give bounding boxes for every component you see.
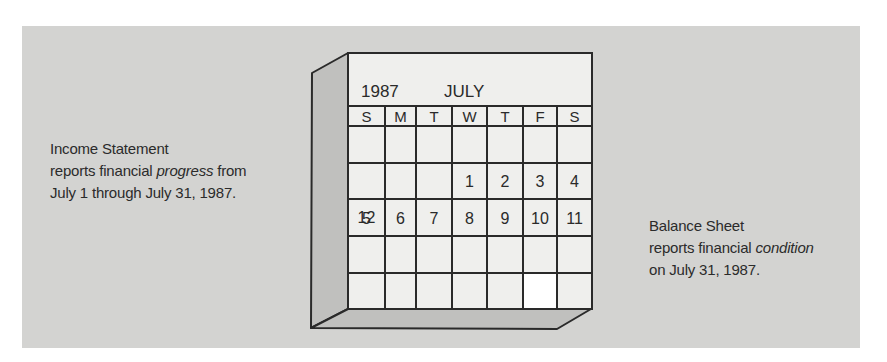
income-statement-line2: reports financial progress from: [50, 160, 246, 182]
date-cell: 9: [501, 210, 510, 227]
date-cell: 7: [430, 210, 439, 227]
date-cell: 4: [570, 173, 579, 190]
income-statement-title: Income Statement: [50, 138, 246, 160]
date-cell: 1: [465, 173, 474, 190]
balance-sheet-label: Balance Sheet reports financial conditio…: [649, 215, 814, 281]
weekday-label: M: [394, 108, 407, 125]
date-cell: 2: [501, 173, 510, 190]
weekday-label: S: [361, 108, 371, 125]
calendar-bottom-face: [311, 309, 591, 329]
date-cell: 11: [566, 210, 583, 227]
progress-emphasis: progress: [156, 162, 213, 179]
highlighted-date-cell: [523, 273, 557, 308]
date-cell: 3: [536, 173, 545, 190]
date-cell: 8: [465, 210, 474, 227]
income-statement-label: Income Statement reports financial progr…: [50, 138, 246, 204]
calendar-side-face: [311, 53, 348, 328]
balance-sheet-line2: reports financial condition: [649, 237, 814, 259]
condition-emphasis: condition: [755, 239, 813, 256]
calendar-month: JULY: [444, 82, 484, 101]
calendar-year: 1987: [361, 82, 399, 101]
weekday-label: W: [462, 108, 477, 125]
date-cell: 10: [531, 210, 549, 227]
weekday-label: T: [429, 108, 438, 125]
income-statement-line3: July 1 through July 31, 1987.: [50, 182, 246, 204]
date-cell: 12: [358, 209, 376, 226]
weekday-label: F: [535, 108, 544, 125]
balance-sheet-title: Balance Sheet: [649, 215, 814, 237]
balance-sheet-line3: on July 31, 1987.: [649, 259, 814, 281]
weekday-label: T: [500, 108, 509, 125]
weekday-label: S: [569, 108, 579, 125]
date-cell: 6: [396, 210, 405, 227]
